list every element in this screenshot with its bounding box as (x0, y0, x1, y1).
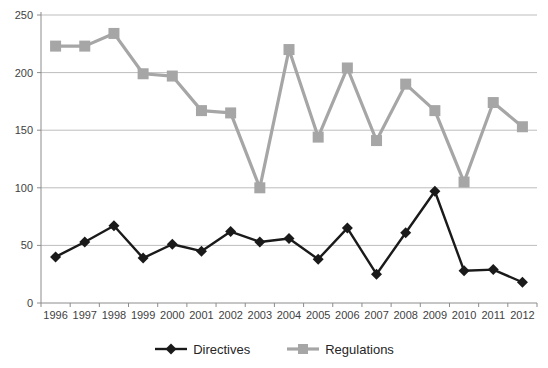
x-tick-label: 2012 (510, 309, 534, 321)
data-point-marker (488, 264, 499, 275)
x-tick-label: 2002 (218, 309, 242, 321)
x-tick-label: 2007 (364, 309, 388, 321)
x-tick-label: 1996 (43, 309, 67, 321)
data-point-marker (196, 105, 207, 116)
y-tick-label: 200 (15, 67, 33, 79)
data-point-marker (488, 97, 499, 108)
x-tick-label: 2003 (248, 309, 272, 321)
regulations-line-marker-icon (286, 342, 320, 356)
data-point-marker (254, 182, 265, 193)
chart-canvas: 0501001502002501996199719981999200020012… (0, 0, 548, 332)
legend-marker (166, 344, 177, 355)
x-tick-label: 2008 (393, 309, 417, 321)
y-tick-label: 0 (27, 297, 33, 309)
legend-marker (298, 344, 308, 354)
series-regulations (50, 28, 528, 193)
x-tick-label: 2001 (189, 309, 213, 321)
legend-item-directives: Directives (154, 342, 250, 357)
x-tick-label: 2011 (481, 309, 505, 321)
y-tick-label: 50 (21, 239, 33, 251)
y-tick-label: 150 (15, 124, 33, 136)
x-tick-label: 1999 (131, 309, 155, 321)
legend-item-regulations: Regulations (286, 342, 394, 357)
y-tick-label: 100 (15, 182, 33, 194)
data-point-marker (400, 79, 411, 90)
x-tick-label: 2010 (452, 309, 476, 321)
data-point-marker (167, 71, 178, 82)
data-point-marker (342, 62, 353, 73)
data-point-marker (167, 239, 178, 250)
data-point-marker (313, 132, 324, 143)
data-point-marker (79, 41, 90, 52)
data-point-marker (50, 41, 61, 52)
legend-label-directives: Directives (193, 342, 250, 357)
data-point-marker (138, 68, 149, 79)
x-tick-label: 2004 (277, 309, 301, 321)
series-directives (50, 186, 528, 288)
x-tick-label: 1997 (73, 309, 97, 321)
data-point-marker (517, 277, 528, 288)
data-point-marker (371, 135, 382, 146)
data-point-marker (459, 177, 470, 188)
data-point-marker (459, 265, 470, 276)
x-tick-label: 1998 (102, 309, 126, 321)
x-tick-label: 2005 (306, 309, 330, 321)
x-tick-label: 2009 (423, 309, 447, 321)
y-tick-label: 250 (15, 9, 33, 21)
x-tick-label: 2006 (335, 309, 359, 321)
data-point-marker (108, 28, 119, 39)
chart-figure: 0501001502002501996199719981999200020012… (0, 0, 548, 368)
legend: Directives Regulations (0, 336, 548, 362)
legend-label-regulations: Regulations (325, 342, 394, 357)
directives-line-marker-icon (154, 342, 188, 356)
series-line (56, 33, 523, 187)
data-point-marker (50, 251, 61, 262)
x-tick-label: 2000 (160, 309, 184, 321)
data-point-marker (284, 44, 295, 55)
data-point-marker (517, 121, 528, 132)
data-point-marker (225, 107, 236, 118)
data-point-marker (429, 105, 440, 116)
